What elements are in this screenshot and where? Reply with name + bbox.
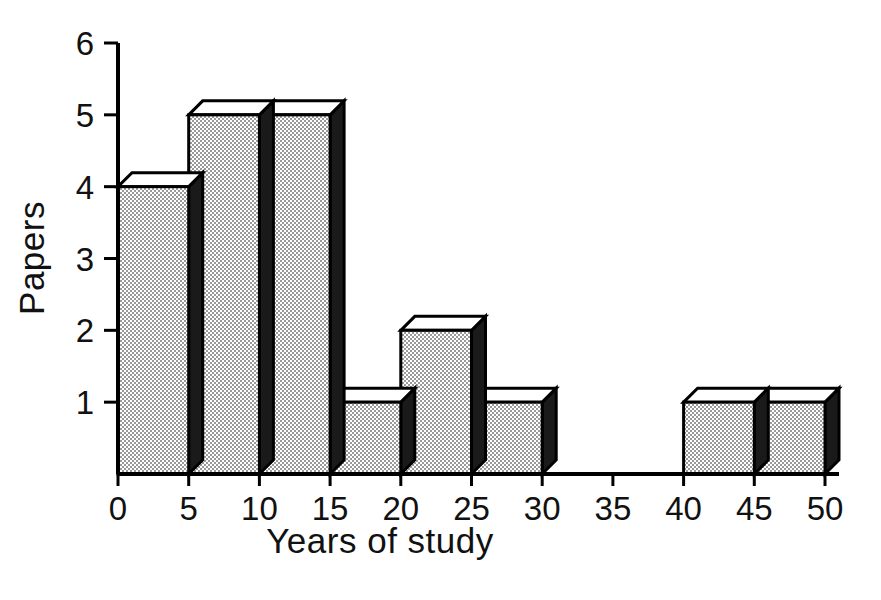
y-tick-label: 5 xyxy=(76,97,94,134)
bar-side-face xyxy=(189,173,203,474)
bar-top-face xyxy=(189,101,274,115)
y-tick-label: 3 xyxy=(76,241,94,278)
bar-side-face xyxy=(330,101,344,474)
x-axis-title: Years of study xyxy=(266,521,494,560)
x-tick-label: 5 xyxy=(180,490,198,527)
x-tick-label: 0 xyxy=(109,490,127,527)
y-tick-label: 2 xyxy=(76,312,94,349)
bar-front-face xyxy=(118,187,189,474)
bar-0-5 xyxy=(118,173,203,474)
x-tick-label: 45 xyxy=(736,490,773,527)
bar-side-face xyxy=(472,316,486,474)
bar-side-face xyxy=(259,101,273,474)
bar-top-face xyxy=(684,388,769,402)
y-tick-label: 6 xyxy=(76,25,94,62)
bar-top-face xyxy=(118,173,203,187)
bar-front-face xyxy=(684,402,755,474)
y-tick-label: 1 xyxy=(76,384,94,421)
y-axis-title: Papers xyxy=(12,201,51,315)
x-tick-label: 50 xyxy=(807,490,844,527)
chart-figure: 123456 05101520253035404550 Papers Years… xyxy=(0,0,881,600)
y-tick-label: 4 xyxy=(76,169,94,206)
bar-40-45 xyxy=(684,388,769,474)
x-tick-label: 30 xyxy=(524,490,561,527)
x-tick-label: 40 xyxy=(665,490,702,527)
bar-top-face xyxy=(401,316,486,330)
x-tick-label: 35 xyxy=(595,490,632,527)
histogram-svg: 123456 05101520253035404550 Papers Years… xyxy=(0,0,881,600)
